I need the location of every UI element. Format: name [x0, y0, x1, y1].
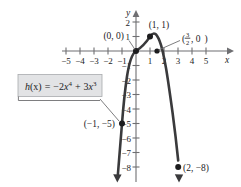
leader-equation-to-point [100, 99, 119, 121]
x-intercept-frac-denominator: 2 [186, 39, 189, 46]
x-tick-label-5: 5 [204, 56, 209, 66]
point-dot-origin [133, 48, 139, 54]
x-tick-label--2: −2 [103, 56, 113, 66]
x-intercept-paren-close: ) [205, 34, 208, 45]
equation-equals: = [45, 81, 51, 92]
x-tick-label-4: 4 [190, 56, 195, 66]
y-tick-label--7: −7 [121, 148, 131, 158]
x-axis-arrow-icon [227, 48, 234, 55]
point-label-right-point: (2, −8) [183, 163, 209, 174]
y-tick-label-2: 2 [126, 18, 131, 28]
x-axis-label: x [224, 55, 230, 65]
point-dot-left-point [119, 121, 125, 127]
equation-term1-exponent: 4 [68, 80, 72, 88]
point-dot-right-point [175, 164, 181, 170]
y-tick-label--6: −6 [121, 134, 131, 144]
x-intercept-frac-numerator: 3 [186, 31, 189, 38]
equation-expression: h(x)=−2x4+3x3 [25, 80, 97, 93]
equation-term2-exponent: 3 [93, 80, 97, 88]
point-label-origin: (0, 0) [103, 31, 124, 42]
point-label-x-intercept: ( 3 2 , 0 ) [182, 31, 208, 46]
function-graph-figure: −5 −4 −3 −2 −1 1 2 3 4 5 2 1 −1 −2 −3 −4… [0, 0, 241, 187]
y-tick-label--3: −3 [121, 90, 131, 100]
point-dot-x-intercept [154, 48, 159, 53]
y-axis-label: y [125, 8, 131, 18]
x-tick-label-3: 3 [176, 56, 181, 66]
y-axis-arrow-icon [133, 10, 140, 17]
x-intercept-tail: , 0 [191, 34, 201, 44]
curve-left-arrow-icon [113, 174, 121, 182]
point-label-local-max: (1, 1) [149, 20, 170, 31]
curve-right-arrow-icon [175, 174, 183, 182]
leader-origin [129, 41, 135, 50]
equation-operator: + [75, 81, 81, 92]
equation-callout: h(x)=−2x4+3x3 [18, 75, 102, 101]
graph-canvas: −5 −4 −3 −2 −1 1 2 3 4 5 2 1 −1 −2 −3 −4… [0, 0, 241, 187]
x-tick-label-1: 1 [148, 56, 153, 66]
y-tick-label--8: −8 [121, 163, 131, 173]
point-dot-local-max [147, 34, 153, 40]
x-tick-labels: −5 −4 −3 −2 −1 1 2 3 4 5 [61, 56, 209, 66]
equation-term1-coef: −2 [53, 81, 64, 92]
x-tick-label--5: −5 [61, 56, 71, 66]
x-intercept-paren-open: ( [182, 34, 185, 45]
equation-text-group: h(x)=−2x4+3x3 [25, 80, 97, 93]
x-tick-label--3: −3 [89, 56, 99, 66]
equation-callout-stem [18, 97, 100, 101]
x-tick-label--4: −4 [75, 56, 85, 66]
equation-fn-arg: (x) [30, 81, 42, 93]
point-label-left-point: (−1, −5) [84, 119, 115, 130]
